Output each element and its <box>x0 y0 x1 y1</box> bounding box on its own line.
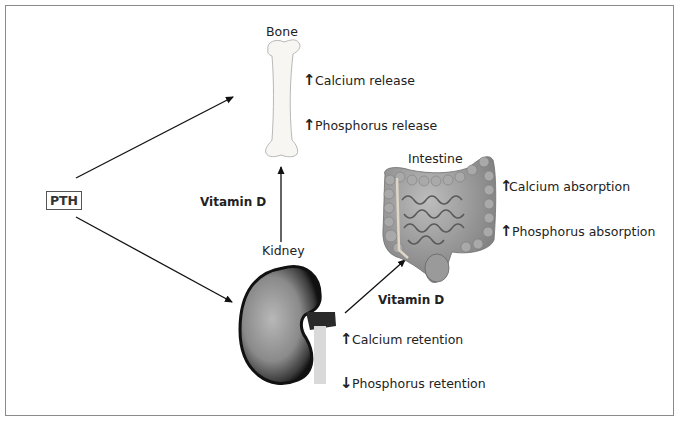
bone-label: Bone <box>266 24 298 39</box>
effect-text: Phosphorus absorption <box>512 224 655 239</box>
intestine-illustration <box>383 157 496 283</box>
bone-effect-calcium: ↑ Calcium release <box>303 73 415 88</box>
effect-text: Calcium retention <box>352 332 463 347</box>
vitamin-d-label-bone: Vitamin D <box>200 195 266 209</box>
up-arrow-icon: ↑ <box>340 332 348 347</box>
kidney-effect-calcium: ↑ Calcium retention <box>340 332 463 347</box>
up-arrow-icon: ↑ <box>303 73 311 88</box>
effect-text: Calcium release <box>315 73 415 88</box>
effect-text: Phosphorus retention <box>352 376 486 391</box>
effect-text: Phosphorus release <box>315 118 437 133</box>
arrow-pth-to-kidney <box>76 217 232 302</box>
down-arrow-icon: ↓ <box>340 376 348 391</box>
vitamin-d-label-intestine: Vitamin D <box>378 293 444 307</box>
kidney-effect-phosphorus: ↓ Phosphorus retention <box>340 376 486 391</box>
pth-box: PTH <box>46 191 82 210</box>
intestine-label: Intestine <box>408 151 463 166</box>
kidney-illustration <box>240 267 336 384</box>
effect-text: Calcium absorption <box>509 179 630 194</box>
kidney-label: Kidney <box>262 243 305 258</box>
intestine-effect-phosphorus: ↑ Phosphorus absorption <box>500 224 655 239</box>
diagram-artwork <box>0 0 682 421</box>
intestine-effect-calcium: ↑ Calcium absorption <box>500 179 630 194</box>
bone-illustration <box>266 40 300 157</box>
up-arrow-icon: ↑ <box>303 118 311 133</box>
up-arrow-icon: ↑ <box>500 224 508 239</box>
bone-effect-phosphorus: ↑ Phosphorus release <box>303 118 437 133</box>
up-arrow-icon: ↑ <box>500 179 508 194</box>
arrow-pth-to-bone <box>76 97 233 178</box>
